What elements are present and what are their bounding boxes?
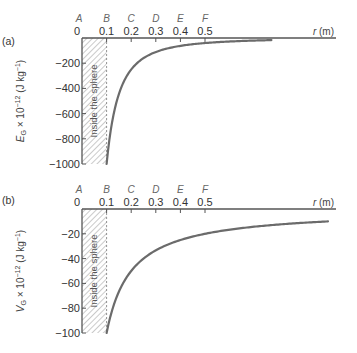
figure-svg: (a)Inside the sphere0A0.1B0.2C0.3D0.4E0.… [0,0,357,353]
point-label: F [202,184,209,195]
point-label: D [152,13,159,24]
x-axis-title: r (m) [313,26,334,37]
point-label: C [128,13,136,24]
y-axis-title: VG × 10−12 (J kg−1) [14,230,27,312]
point-label: F [202,13,209,24]
x-tick-label: 0 [74,196,80,208]
x-tick-label: 0.4 [173,25,188,37]
point-label: D [152,184,159,195]
y-tick-label: −800 [55,133,80,145]
x-tick-label: 0.3 [148,196,163,208]
x-tick-label: 0.2 [124,25,139,37]
panel-b: (b)Inside the sphere0A0.1B0.2C0.3D0.4E0.… [2,184,336,339]
y-tick-label: −600 [55,108,80,120]
x-tick-label: 0 [74,25,80,37]
panel-label: (b) [2,194,15,206]
x-tick-label: 0.1 [99,25,114,37]
x-tick-label: 0.3 [148,25,163,37]
y-tick-label: −20 [61,228,80,240]
y-tick-label: −1000 [49,158,80,170]
x-axis-title: r (m) [313,197,334,208]
x-tick-label: 0.4 [173,196,188,208]
y-tick-label: −60 [61,277,80,289]
chart-figure: (a)Inside the sphere0A0.1B0.2C0.3D0.4E0.… [0,0,357,353]
panel-label: (a) [2,35,15,47]
data-curve [107,40,272,164]
y-tick-label: −40 [61,253,80,265]
point-label: A [75,13,83,24]
y-tick-label: −400 [55,82,80,94]
y-tick-label: −80 [61,302,80,314]
point-label: A [75,184,83,195]
point-label: C [128,184,136,195]
x-tick-label: 0.5 [197,196,212,208]
point-label: E [177,184,184,195]
x-tick-label: 0.2 [124,196,139,208]
point-label: B [103,184,110,195]
point-label: E [177,13,184,24]
inside-sphere-label: Inside the sphere [88,235,99,308]
x-tick-label: 0.5 [197,25,212,37]
panel-a: (a)Inside the sphere0A0.1B0.2C0.3D0.4E0.… [2,13,336,170]
data-curve [107,221,328,333]
y-tick-label: −200 [55,57,80,69]
y-axis-title: EG × 10−12 (J kg−1) [14,60,27,142]
inside-sphere-label: Inside the sphere [88,65,99,138]
x-tick-label: 0.1 [99,196,114,208]
y-tick-label: −100 [55,327,80,339]
point-label: B [103,13,110,24]
